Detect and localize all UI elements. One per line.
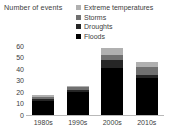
legend-swatch-icon — [76, 24, 81, 29]
chart-legend: Extreme temperaturesStormsDroughtsFloods — [76, 3, 170, 41]
legend-item-label: Extreme temperatures — [84, 3, 153, 12]
bar-segment — [136, 67, 158, 75]
bar-group[interactable] — [136, 46, 158, 115]
legend-item[interactable]: Extreme temperatures — [76, 3, 170, 13]
bar-stack — [32, 95, 54, 115]
bar-segment — [136, 78, 158, 115]
legend-item-label: Floods — [84, 32, 105, 41]
legend-item-label: Droughts — [84, 22, 112, 31]
legend-swatch-icon — [76, 34, 81, 39]
legend-item[interactable]: Floods — [76, 32, 170, 42]
bar-segment — [101, 60, 123, 68]
bar-stack — [136, 62, 158, 115]
y-tick-label: 20 — [2, 89, 24, 96]
legend-item-label: Storms — [84, 13, 106, 22]
x-axis-baseline — [26, 115, 164, 116]
legend-swatch-icon — [76, 15, 81, 20]
y-tick-label: 0 — [2, 112, 24, 119]
bar-stack — [67, 86, 89, 115]
stacked-bar-chart: Number of events Extreme temperaturesSto… — [0, 0, 170, 134]
bar-group[interactable] — [101, 46, 123, 115]
legend-item[interactable]: Storms — [76, 13, 170, 23]
bar-segment — [101, 68, 123, 115]
bar-segment — [67, 92, 89, 115]
bar-group[interactable] — [67, 46, 89, 115]
bar-stack — [101, 48, 123, 115]
y-tick-label: 60 — [2, 43, 24, 50]
legend-swatch-icon — [76, 5, 81, 10]
legend-item[interactable]: Droughts — [76, 22, 170, 32]
bar-segment — [32, 101, 54, 115]
bar-segment — [101, 48, 123, 55]
y-tick-label: 40 — [2, 66, 24, 73]
y-tick-label: 10 — [2, 100, 24, 107]
y-axis-tick-labels: 6050403020100 — [0, 0, 24, 134]
bar-group[interactable] — [32, 46, 54, 115]
y-tick-label: 30 — [2, 77, 24, 84]
plot-area — [26, 46, 164, 115]
x-tick-label: 2010s — [127, 119, 167, 126]
y-tick-label: 50 — [2, 54, 24, 61]
